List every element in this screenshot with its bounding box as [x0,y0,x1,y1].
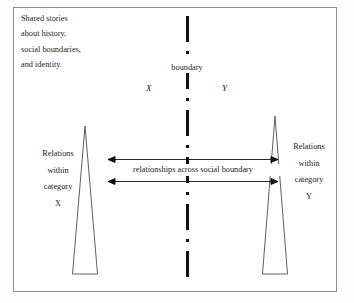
relations-x-line-4: X [21,196,95,213]
boundary-dot [186,145,189,148]
cross-boundary-arrow-top [108,155,278,164]
social-boundary-diagram: Shared stories about history, social bou… [0,0,354,303]
relations-x-line-1: Relations [21,146,95,163]
cross-boundary-caption: relationships across social boundary [104,164,282,176]
category-letter-y: Y [222,83,227,94]
boundary-dash [186,251,189,277]
boundary-dot [186,192,189,195]
caption-line-3: social boundaries, [21,42,151,57]
caption-line-2: about history, [21,26,151,41]
relations-x-line-2: within [21,163,95,180]
relations-y-line-1: Relations [272,139,346,156]
relations-within-category-y-label: Relations within category Y [272,139,346,205]
social-boundary-line [186,16,189,286]
boundary-dot [186,239,189,242]
relations-x-line-3: category [21,179,95,196]
caption-line-4: and identity. [21,57,151,72]
relations-y-line-3: category [272,172,346,189]
boundary-dot [186,51,189,54]
boundary-label: boundary [151,62,223,73]
boundary-dot [186,98,189,101]
relations-y-line-4: Y [272,189,346,206]
category-letter-x: X [146,83,152,94]
relations-within-category-x-label: Relations within category X [21,146,95,212]
caption-line-1: Shared stories [21,11,151,26]
boundary-dash [186,16,189,42]
cross-boundary-arrow-bottom [108,177,278,186]
boundary-dash [186,204,189,230]
shared-stories-caption: Shared stories about history, social bou… [21,11,151,73]
relations-y-line-2: within [272,156,346,173]
boundary-dash [186,110,189,136]
